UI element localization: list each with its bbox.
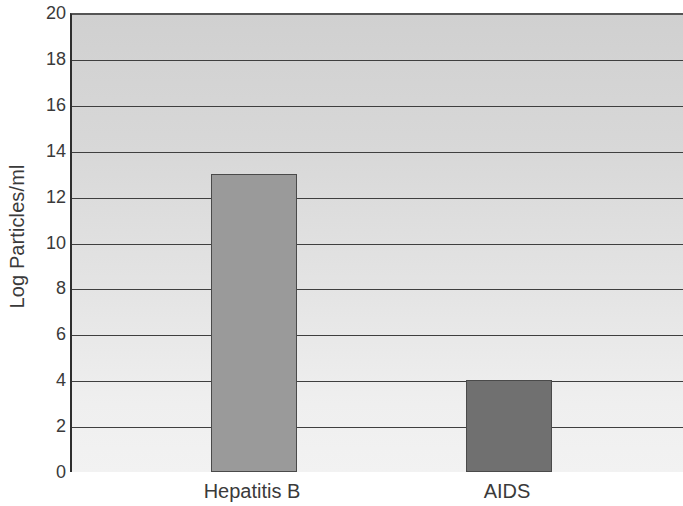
y-tick-label-20: 20 <box>30 4 66 22</box>
y-tick-label-18: 18 <box>30 50 66 68</box>
y-tick-label-8: 8 <box>30 279 66 297</box>
x-label-aids: AIDS <box>484 478 531 504</box>
y-tick-label-2: 2 <box>30 417 66 435</box>
bar-chart: Log Particles/ml 02468101214161820 Hepat… <box>0 0 683 506</box>
y-axis-tick-labels: 02468101214161820 <box>30 0 66 506</box>
y-tick-label-6: 6 <box>30 325 66 343</box>
y-tick-label-4: 4 <box>30 371 66 389</box>
y-tick-label-0: 0 <box>30 463 66 481</box>
bar-hepatitis-b <box>211 174 297 472</box>
plot-area <box>70 13 683 472</box>
y-tick-label-10: 10 <box>30 234 66 252</box>
x-label-hepatitis-b: Hepatitis B <box>204 478 301 504</box>
x-axis-category-labels: Hepatitis BAIDS <box>70 478 683 506</box>
y-tick-label-12: 12 <box>30 188 66 206</box>
y-tick-label-14: 14 <box>30 142 66 160</box>
bars <box>72 14 683 472</box>
y-axis-title-text: Log Particles/ml <box>7 164 30 308</box>
y-tick-label-16: 16 <box>30 96 66 114</box>
bar-aids <box>466 380 552 472</box>
